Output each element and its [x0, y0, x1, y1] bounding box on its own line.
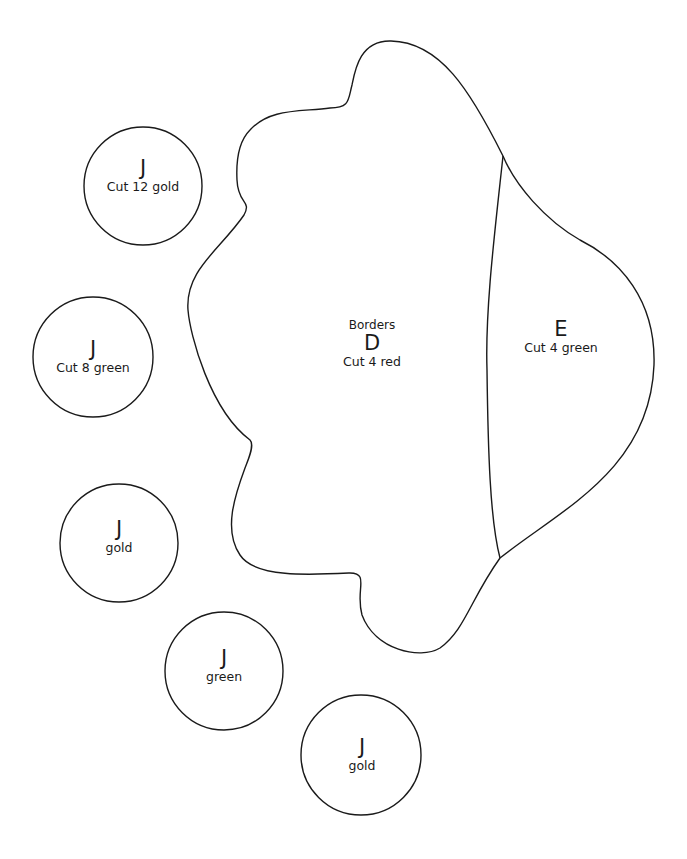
circle-j-4-instruction: green [206, 669, 242, 684]
circle-j-3-label: J gold [106, 518, 133, 555]
circle-j-1-instruction: Cut 12 gold [107, 179, 179, 194]
piece-d-e-divider [487, 156, 503, 558]
circle-j-3-instruction: gold [106, 540, 133, 555]
circle-j-4-label: J green [206, 647, 242, 684]
circle-j-1-label: J Cut 12 gold [107, 157, 179, 194]
circle-j-2-label: J Cut 8 green [56, 338, 130, 375]
circle-j-2-letter: J [56, 338, 130, 360]
circle-j-5-letter: J [349, 736, 376, 758]
piece-e-label: E Cut 4 green [524, 318, 598, 355]
piece-d-instruction: Cut 4 red [343, 354, 401, 369]
circle-j-3-letter: J [106, 518, 133, 540]
circle-j-5-instruction: gold [349, 758, 376, 773]
piece-e-letter: E [524, 318, 598, 340]
circle-j-4-letter: J [206, 647, 242, 669]
piece-d-label: Borders D Cut 4 red [343, 318, 401, 369]
pattern-template-drawing [0, 0, 687, 859]
piece-d-borders-text: Borders [343, 318, 401, 332]
circle-j-5-label: J gold [349, 736, 376, 773]
circle-j-2-instruction: Cut 8 green [56, 360, 130, 375]
circle-j-1-letter: J [107, 157, 179, 179]
piece-d-letter: D [343, 332, 401, 354]
piece-e-instruction: Cut 4 green [524, 340, 598, 355]
